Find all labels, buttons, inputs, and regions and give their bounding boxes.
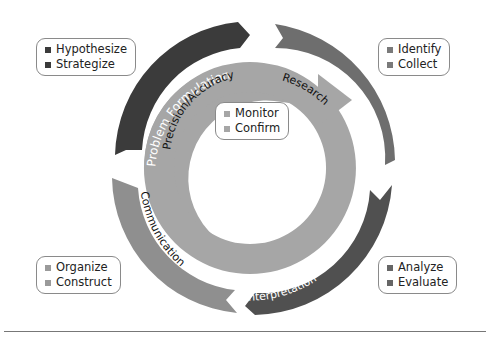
item-text: Monitor xyxy=(235,106,279,121)
list-item: Collect xyxy=(387,57,441,72)
callout-communication: Organize Construct xyxy=(36,256,121,294)
list-item: Analyze xyxy=(387,260,448,275)
horizontal-rule xyxy=(4,331,486,332)
callout-precision: Monitor Confirm xyxy=(215,102,289,140)
bullet-square-icon xyxy=(387,62,393,68)
list-item: Identify xyxy=(387,42,441,57)
list-item: Evaluate xyxy=(387,275,448,290)
item-text: Confirm xyxy=(235,121,280,136)
callout-problem-formulation: Hypothesize Strategize xyxy=(36,38,136,76)
list-item: Strategize xyxy=(45,57,127,72)
bullet-square-icon xyxy=(387,280,393,286)
item-text: Identify xyxy=(398,42,441,57)
bullet-square-icon xyxy=(387,265,393,271)
list-item: Organize xyxy=(45,260,112,275)
bullet-square-icon xyxy=(45,62,51,68)
item-text: Hypothesize xyxy=(56,42,127,57)
bullet-square-icon xyxy=(224,126,230,132)
bullet-square-icon xyxy=(387,47,393,53)
callout-interpretation: Analyze Evaluate xyxy=(378,256,457,294)
bullet-square-icon xyxy=(45,47,51,53)
bullet-square-icon xyxy=(224,111,230,117)
list-item: Monitor xyxy=(224,106,280,121)
item-text: Construct xyxy=(56,275,112,290)
bullet-square-icon xyxy=(45,265,51,271)
item-text: Analyze xyxy=(398,260,443,275)
bullet-square-icon xyxy=(45,280,51,286)
item-text: Collect xyxy=(398,57,437,72)
callout-research: Identify Collect xyxy=(378,38,450,76)
item-text: Strategize xyxy=(56,57,115,72)
list-item: Confirm xyxy=(224,121,280,136)
item-text: Evaluate xyxy=(398,275,448,290)
list-item: Construct xyxy=(45,275,112,290)
list-item: Hypothesize xyxy=(45,42,127,57)
item-text: Organize xyxy=(56,260,108,275)
